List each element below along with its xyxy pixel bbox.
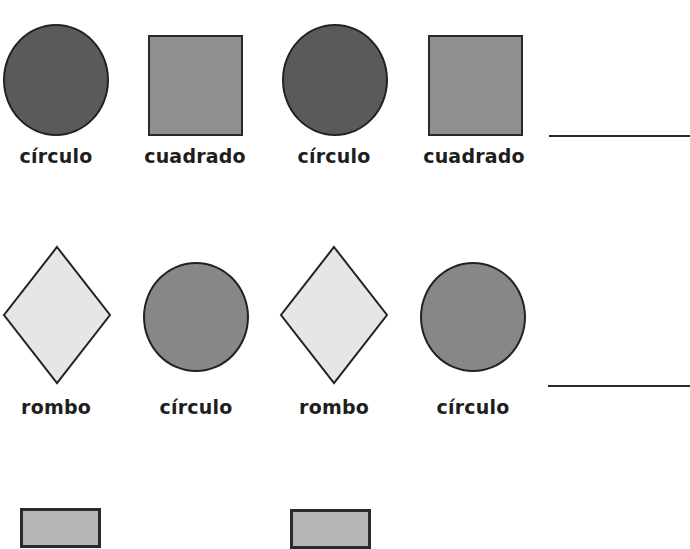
shape-label: cuadrado bbox=[135, 145, 255, 167]
answer-blank-line[interactable] bbox=[548, 385, 690, 387]
shape-label: círculo bbox=[274, 145, 394, 167]
shape-label: rombo bbox=[0, 396, 116, 418]
circle-shape bbox=[3, 24, 109, 136]
square-shape bbox=[290, 509, 371, 549]
answer-blank-line[interactable] bbox=[549, 135, 690, 137]
rhombus-shape bbox=[2, 245, 112, 385]
shape-label: círculo bbox=[0, 145, 116, 167]
shape-label: círculo bbox=[413, 396, 533, 418]
rhombus-shape bbox=[279, 245, 389, 385]
square-shape bbox=[148, 35, 243, 136]
circle-shape bbox=[282, 24, 388, 136]
shape-label: rombo bbox=[274, 396, 394, 418]
circle-shape bbox=[143, 262, 249, 372]
circle-shape bbox=[420, 262, 526, 372]
shape-label: círculo bbox=[136, 396, 256, 418]
shape-label: cuadrado bbox=[414, 145, 534, 167]
square-shape bbox=[428, 35, 523, 136]
square-shape bbox=[20, 508, 101, 548]
